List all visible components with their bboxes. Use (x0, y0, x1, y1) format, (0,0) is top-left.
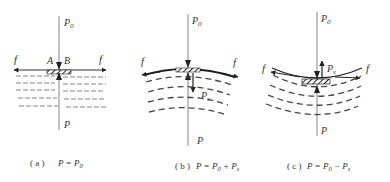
label-point-a: A (46, 55, 54, 66)
panel-a: P0 P f f A B ( a ) P = P0 (14, 16, 107, 169)
surface-element (302, 79, 330, 84)
label-p0: P0 (191, 15, 202, 28)
label-f-left: f (14, 53, 19, 65)
label-ps: Ps (200, 90, 210, 103)
label-ps: Ps (326, 63, 336, 76)
label-f-left: f (262, 62, 267, 74)
panel-b: P0 P f f Ps ( b ) P = P0 + Ps (141, 14, 240, 172)
caption-a-prefix: ( a ) (30, 158, 45, 168)
caption-c-equation: P = P0 − Ps (306, 161, 351, 172)
arrow-down-p0 (56, 62, 62, 70)
caption-c-prefix: ( c ) (287, 161, 302, 171)
caption-b-equation: P = P0 + Ps (195, 161, 240, 172)
label-p: P (320, 125, 327, 136)
arrow-up-p (185, 72, 191, 80)
label-p0: P0 (320, 13, 331, 26)
label-p0: P0 (63, 17, 74, 30)
label-p: P (196, 135, 203, 146)
force-arrow-right (220, 73, 238, 77)
surface-element (176, 68, 200, 72)
liquid-layers (16, 76, 107, 107)
label-p: P (63, 119, 70, 130)
label-f-left: f (141, 55, 146, 67)
caption-a-equation: P = P0 (57, 158, 83, 169)
label-f-right: f (366, 62, 371, 74)
label-f-right: f (233, 56, 238, 68)
arrow-down-p0 (185, 60, 191, 68)
force-arrow-right (335, 77, 360, 78)
surface-tension-diagram: P0 P f f A B ( a ) P = P0 P0 P f f (0, 0, 390, 182)
caption-b-prefix: ( b ) (175, 161, 190, 171)
liquid-layers (146, 77, 232, 115)
panel-c: P0 P f f Ps ( c ) P = P0 − Ps (262, 12, 371, 172)
label-point-b: B (64, 55, 70, 66)
label-f-right: f (99, 53, 104, 65)
